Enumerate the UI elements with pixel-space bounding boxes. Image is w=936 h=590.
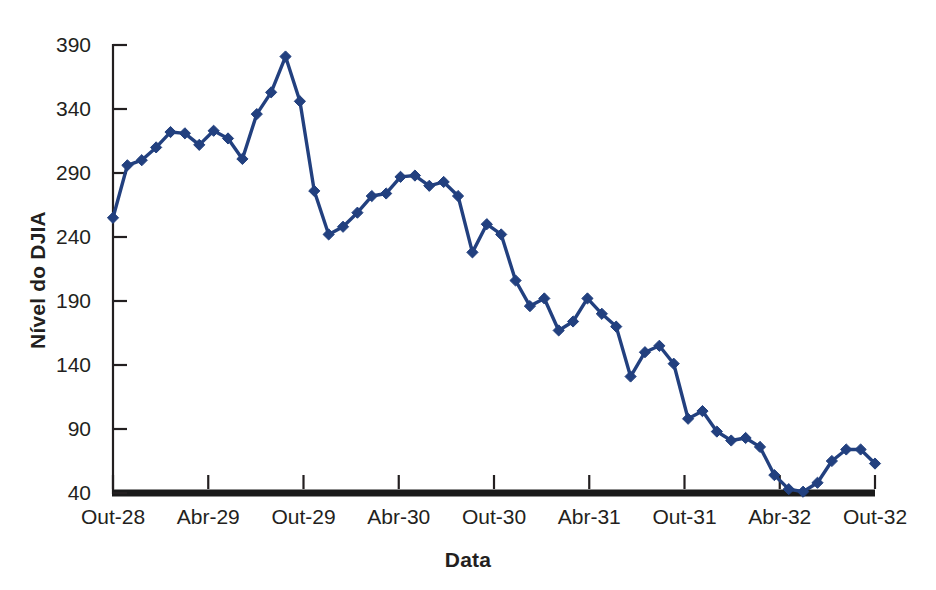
x-tick-label: Out-28 [81,505,145,529]
x-tick-label: Abr-32 [748,505,811,529]
x-tick-label: Abr-30 [367,505,430,529]
data-point-marker [294,96,305,107]
y-tick-label: 40 [0,481,91,505]
x-axis-title: Data [0,548,936,572]
data-point-marker [309,185,320,196]
data-point-marker [280,51,291,62]
data-point-marker [122,160,133,171]
chart-container: Nível do DJIA Data 409014019024029034039… [0,0,936,590]
data-point-marker [107,212,118,223]
x-tick-label: Out-29 [271,505,335,529]
y-tick-label: 340 [0,97,91,121]
y-tick-label: 240 [0,225,91,249]
y-tick-label: 90 [0,417,91,441]
y-tick-label: 390 [0,33,91,57]
x-tick-label: Abr-31 [558,505,621,529]
line-chart-plot [0,0,936,590]
y-tick-label: 140 [0,353,91,377]
chart-axes [112,45,875,493]
x-tick-label: Out-32 [843,505,907,529]
data-series-group [107,51,880,497]
y-axis-title: Nível do DJIA [26,180,50,380]
y-tick-label: 190 [0,289,91,313]
x-tick-label: Out-31 [652,505,716,529]
x-tick-label: Abr-29 [177,505,240,529]
y-tick-label: 290 [0,161,91,185]
x-tick-label: Out-30 [462,505,526,529]
series-line [113,57,875,492]
data-point-marker [467,247,478,258]
